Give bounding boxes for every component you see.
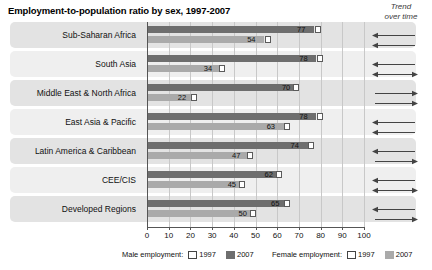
- legend-male-2007-label: 2007: [237, 250, 254, 259]
- bar-group: 7754: [147, 22, 364, 48]
- marker-female-1997[interactable]: [284, 123, 290, 130]
- x-tick: [234, 227, 235, 230]
- legend-male-1997: 1997: [188, 250, 216, 259]
- legend-swatch-open-icon: [188, 251, 197, 259]
- bar-male-2007[interactable]: [148, 26, 314, 33]
- marker-male-1997[interactable]: [317, 55, 323, 62]
- marker-male-1997[interactable]: [308, 142, 314, 149]
- category-label[interactable]: South Asia: [10, 51, 141, 77]
- bar-male-2007[interactable]: [148, 200, 288, 207]
- marker-male-1997[interactable]: [293, 84, 299, 91]
- marker-male-1997[interactable]: [276, 171, 282, 178]
- category-label[interactable]: CEE/CIS: [10, 167, 141, 193]
- x-tick: [364, 227, 365, 230]
- category-label[interactable]: Developed Regions: [10, 196, 141, 222]
- trend-arrow-female-right-icon: [371, 93, 419, 100]
- category-label[interactable]: Latin America & Caribbean: [10, 138, 141, 164]
- bar-male-2007[interactable]: [148, 142, 308, 149]
- bar-male-2007[interactable]: [148, 171, 282, 178]
- x-tick: [190, 227, 191, 230]
- bar-value-female-2007: 54: [247, 36, 255, 43]
- trend-arrow-male-left-icon: [371, 54, 419, 61]
- bar-female-2007[interactable]: [148, 123, 284, 130]
- bar-value-female-2007: 22: [178, 94, 186, 101]
- bar-group: 6550: [147, 196, 364, 222]
- marker-female-1997[interactable]: [239, 181, 245, 188]
- chart-figure: Employment-to-population ratio by sex, 1…: [0, 0, 432, 270]
- bar-group: 7447: [147, 138, 364, 164]
- legend-female-2007: 2007: [385, 250, 413, 259]
- trend-arrow-male-left-icon: [371, 141, 419, 148]
- bar-value-female-2007: 34: [204, 65, 212, 72]
- x-tick: [169, 227, 170, 230]
- x-tick: [277, 227, 278, 230]
- marker-female-1997[interactable]: [191, 94, 197, 101]
- category-label[interactable]: East Asia & Pacific: [10, 109, 141, 135]
- trend-arrow-male-left-icon: [371, 199, 419, 206]
- category-label[interactable]: Middle East & North Africa: [10, 80, 141, 106]
- trend-arrow-male-left-icon: [371, 170, 419, 177]
- plot-area: 7754783470227863744762456550: [147, 22, 364, 227]
- trend-header-line-2: over time: [372, 12, 430, 22]
- legend-male-1997-label: 1997: [199, 250, 216, 259]
- trend-arrow-female-left-icon: [371, 122, 419, 129]
- trend-arrow-male-left-icon: [371, 25, 419, 32]
- trend-arrow-female-left-icon: [371, 35, 419, 42]
- x-tick: [299, 227, 300, 230]
- x-axis: 0102030405060708090100: [147, 227, 364, 243]
- marker-male-1997[interactable]: [317, 113, 323, 120]
- trend-arrow-male-right-icon: [371, 83, 419, 90]
- bar-value-male-2007: 70: [282, 84, 290, 91]
- legend-swatch-light-icon: [385, 251, 394, 259]
- x-tick: [256, 227, 257, 230]
- chart-legend: Male employment: 1997 2007 Female employ…: [0, 248, 432, 264]
- x-tick: [212, 227, 213, 230]
- x-tick: [321, 227, 322, 230]
- legend-female-1997-label: 1997: [358, 250, 375, 259]
- bar-female-2007[interactable]: [148, 94, 195, 101]
- category-label[interactable]: Sub-Saharan Africa: [10, 22, 141, 48]
- x-tick-label: 80: [316, 231, 325, 240]
- legend-female-2007-label: 2007: [396, 250, 413, 259]
- x-tick-label: 90: [338, 231, 347, 240]
- trend-column: [367, 22, 429, 227]
- bar-male-2007[interactable]: [148, 84, 299, 91]
- bar-group: 7022: [147, 80, 364, 106]
- gridline: [364, 22, 365, 227]
- legend-female-1997: 1997: [347, 250, 375, 259]
- x-tick-label: 40: [229, 231, 238, 240]
- x-tick-label: 70: [294, 231, 303, 240]
- marker-female-1997[interactable]: [247, 152, 253, 159]
- marker-female-1997[interactable]: [250, 210, 256, 217]
- x-tick: [147, 227, 148, 230]
- bar-male-2007[interactable]: [148, 113, 316, 120]
- bar-male-2007[interactable]: [148, 55, 316, 62]
- bar-value-male-2007: 62: [265, 171, 273, 178]
- bar-value-female-2007: 63: [267, 123, 275, 130]
- marker-male-1997[interactable]: [284, 200, 290, 207]
- x-tick-label: 60: [273, 231, 282, 240]
- legend-male-2007: 2007: [226, 250, 254, 259]
- legend-female-title: Female employment:: [272, 250, 342, 259]
- trend-over-time-header: Trend over time: [372, 2, 430, 21]
- bar-value-female-2007: 50: [239, 210, 247, 217]
- marker-male-1997[interactable]: [315, 26, 321, 33]
- bar-group: 7863: [147, 109, 364, 135]
- trend-arrow-female-right-icon: [371, 209, 419, 216]
- marker-female-1997[interactable]: [265, 36, 271, 43]
- x-tick-label: 100: [357, 231, 370, 240]
- legend-female-group: Female employment: 1997 2007: [272, 250, 419, 259]
- bar-value-male-2007: 77: [297, 26, 305, 33]
- chart-rows-area: Sub-Saharan AfricaSouth AsiaMiddle East …: [0, 22, 432, 227]
- trend-cell: [367, 109, 425, 135]
- x-tick: [342, 227, 343, 230]
- bar-value-male-2007: 65: [271, 200, 279, 207]
- trend-cell: [367, 167, 425, 193]
- trend-arrow-female-right-icon: [371, 151, 419, 158]
- bar-value-female-2007: 47: [232, 152, 240, 159]
- bar-value-male-2007: 74: [291, 142, 299, 149]
- chart-title: Employment-to-population ratio by sex, 1…: [8, 5, 230, 16]
- marker-female-1997[interactable]: [219, 65, 225, 72]
- trend-header-line-1: Trend: [372, 2, 430, 12]
- bar-value-female-2007: 45: [228, 181, 236, 188]
